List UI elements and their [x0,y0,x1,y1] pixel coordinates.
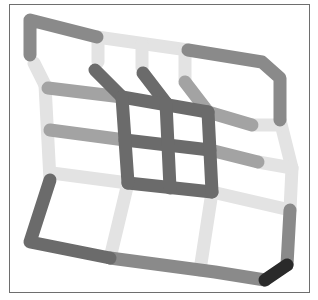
segment-inner-left [122,97,128,183]
segment-outer-bottom-left [30,180,110,258]
segment-col-lower-1 [110,183,128,258]
segment-inner-right [208,112,212,192]
segment-col-lower-2 [200,192,212,270]
segment-outer-right-lower [287,210,290,265]
deformed-grid-diagram [0,0,318,300]
segment-row-3-right [212,192,290,210]
segment-inner-mid-v [166,103,170,188]
segment-outer-top-left [30,20,97,55]
segment-row-2-right [210,150,258,162]
segment-row-2-left [50,130,125,140]
segment-row-3-left [52,173,128,183]
segment-outer-bottom [110,258,265,280]
segment-outer-corner-black [265,265,287,280]
